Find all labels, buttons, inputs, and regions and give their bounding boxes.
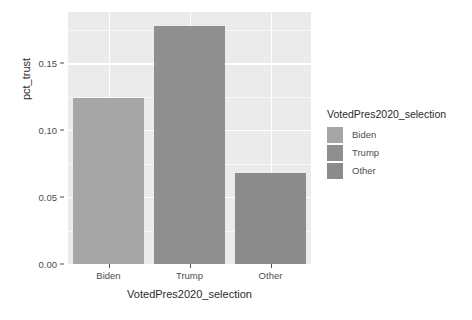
x-tick-label-trump: Trump: [176, 270, 203, 281]
legend-label-biden: Biden: [352, 129, 376, 140]
y-axis-ticks: 0.000.050.100.15: [28, 12, 64, 264]
y-tick-mark: [60, 197, 64, 198]
y-tick-label: 0.00: [39, 259, 58, 270]
x-tick-mark: [109, 264, 110, 268]
legend-swatch-other: [327, 163, 343, 179]
x-tick-mark: [271, 264, 272, 268]
legend-label-trump: Trump: [352, 147, 379, 158]
legend-swatch-trump: [327, 145, 343, 161]
legend-item-trump: Trump: [327, 144, 467, 161]
x-tick-mark: [190, 264, 191, 268]
bar-trump: [154, 26, 225, 264]
plot-panel: [68, 12, 311, 264]
y-tick-label: 0.10: [39, 125, 58, 136]
x-tick-label-biden: Biden: [96, 270, 120, 281]
legend-label-other: Other: [352, 165, 376, 176]
legend-items: BidenTrumpOther: [327, 126, 467, 179]
y-tick-label: 0.05: [39, 192, 58, 203]
bar-other: [235, 173, 306, 264]
bar-biden: [73, 98, 144, 264]
x-axis-ticks: BidenTrumpOther: [68, 264, 311, 284]
y-tick-mark: [60, 264, 64, 265]
y-tick-mark: [60, 63, 64, 64]
legend: VotedPres2020_selection BidenTrumpOther: [327, 108, 467, 180]
legend-swatch-biden: [327, 127, 343, 143]
x-tick-label-other: Other: [259, 270, 283, 281]
legend-title: VotedPres2020_selection: [327, 108, 467, 120]
bar-chart-plot: pct_trust 0.000.050.100.15 BidenTrumpOth…: [0, 0, 472, 320]
y-tick-mark: [60, 130, 64, 131]
x-axis-title: VotedPres2020_selection: [68, 288, 311, 300]
legend-item-biden: Biden: [327, 126, 467, 143]
legend-item-other: Other: [327, 162, 467, 179]
y-tick-label: 0.15: [39, 58, 58, 69]
